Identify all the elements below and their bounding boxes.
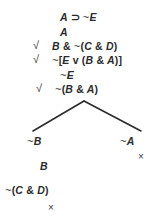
trunk-line-5: ~E	[60, 70, 74, 81]
branch-line-right	[84, 101, 141, 131]
left-branch-node-1: ~B	[27, 136, 41, 147]
right-branch-node-1: ~A	[120, 136, 134, 147]
trunk-line-4: ~[E v (B & A)]	[52, 55, 122, 66]
trunk-line-3: B & ~(C & D)	[52, 41, 118, 52]
check-mark-line-3: √	[33, 40, 39, 51]
check-mark-line-6: √	[36, 83, 42, 94]
branch-line-left	[33, 101, 84, 131]
check-mark-line-4: √	[33, 54, 39, 65]
trunk-line-1: A ⊃ ~E	[60, 12, 97, 23]
right-branch-close-mark: ×	[138, 152, 144, 162]
left-branch-node-3: ~(C & D)	[5, 185, 49, 196]
trunk-line-2: A	[60, 27, 68, 38]
left-branch-close-mark: ×	[48, 203, 54, 213]
trunk-line-6: ~(B & A)	[55, 84, 98, 95]
left-branch-node-2: B	[40, 161, 48, 172]
